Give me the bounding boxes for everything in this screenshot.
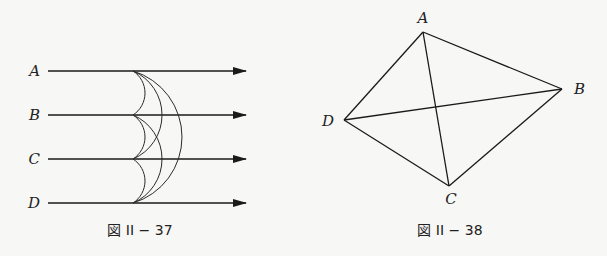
- fig38-edges: [344, 32, 562, 186]
- arc-a-d: [133, 71, 182, 203]
- edge-db: [344, 89, 562, 120]
- arc-c-d: [133, 159, 145, 203]
- vertex-label-b: B: [573, 80, 585, 98]
- vertex-label-a: A: [416, 9, 429, 27]
- vertex-label-d: D: [321, 112, 334, 130]
- figure-38-caption: 図 II − 38: [417, 222, 482, 238]
- ray-label-d: D: [27, 194, 40, 212]
- edge-bc: [449, 89, 562, 186]
- edge-ab: [423, 32, 562, 89]
- arc-b-c: [133, 115, 145, 159]
- figure-37: ABCD 図 II − 37: [27, 62, 246, 238]
- figures-canvas: ABCD 図 II − 37 ABCD 図 II − 38: [0, 0, 607, 256]
- edge-ac: [423, 32, 449, 186]
- edge-cd: [344, 120, 449, 186]
- edge-da: [344, 32, 423, 120]
- fig37-rays: ABCD: [27, 62, 246, 212]
- arc-a-b: [133, 71, 145, 115]
- figure-38: ABCD 図 II − 38: [321, 9, 585, 238]
- figure-37-caption: 図 II − 37: [107, 222, 172, 238]
- fig38-labels: ABCD: [321, 9, 585, 208]
- ray-label-b: B: [28, 106, 40, 124]
- ray-label-a: A: [27, 62, 40, 80]
- fig37-arcs: [133, 71, 182, 203]
- vertex-label-c: C: [445, 190, 457, 208]
- ray-label-c: C: [29, 150, 41, 168]
